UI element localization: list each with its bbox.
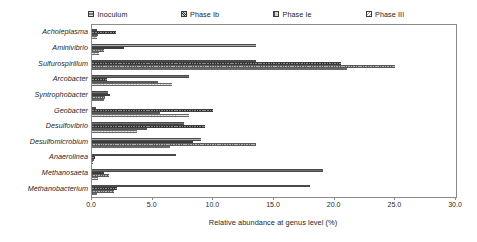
x-axis-tick-mark <box>455 197 456 200</box>
x-axis-tick-label: 5.0 <box>147 201 157 208</box>
x-axis-title: Relative abundance at genus level (%) <box>91 218 455 227</box>
x-axis-tick-label: 25.0 <box>388 201 402 208</box>
bar <box>92 177 98 180</box>
x-axis-tick-mark <box>334 197 335 200</box>
legend-label-phase-ie: Phase Ie <box>283 10 312 19</box>
x-axis-tick-mark <box>394 197 395 200</box>
bar <box>92 75 189 78</box>
bar-group <box>92 41 456 57</box>
legend-label-phase-ib: Phase Ib <box>190 10 219 19</box>
bar <box>92 193 97 196</box>
x-axis-tick-mark <box>91 197 92 200</box>
y-axis-tick-label: Acholeplasma <box>2 27 88 36</box>
legend-item-inoculum: Inoculum <box>88 10 181 19</box>
legend-label-inoculum: Inoculum <box>98 10 128 19</box>
x-axis-tick-mark <box>152 197 153 200</box>
y-axis-tick-label: Desulfomicrobium <box>2 137 88 146</box>
bar <box>92 36 97 39</box>
x-axis: 0.05.010.015.020.025.030.0 <box>91 197 456 213</box>
bar-group <box>92 88 456 104</box>
bar-group <box>92 119 456 135</box>
bar-group <box>92 134 456 150</box>
bar-chart-figure: Inoculum Phase Ib Phase Ie Phase III Ach… <box>0 0 477 242</box>
phase-ie-swatch-icon <box>273 11 279 17</box>
bar <box>92 161 93 164</box>
bar-group <box>92 181 456 197</box>
bars-container <box>92 25 456 197</box>
chart-legend: Inoculum Phase Ib Phase Ie Phase III <box>88 6 458 22</box>
x-axis-tick-label: 30.0 <box>448 201 462 208</box>
bar <box>92 185 310 188</box>
legend-item-phase-ie: Phase Ie <box>273 10 366 19</box>
y-axis-tick-label: Arcobacter <box>2 74 88 83</box>
bar <box>92 114 189 117</box>
plot-area <box>91 24 457 198</box>
x-axis-tick-label: 20.0 <box>327 201 341 208</box>
bar-group <box>92 150 456 166</box>
bar-group <box>92 166 456 182</box>
phase-ib-swatch-icon <box>181 11 187 17</box>
bar <box>92 83 172 86</box>
x-axis-tick-label: 0.0 <box>86 201 96 208</box>
y-axis-tick-label: Aminivibrio <box>2 43 88 52</box>
x-axis-tick-label: 10.0 <box>206 201 220 208</box>
legend-item-phase-ib: Phase Ib <box>181 10 274 19</box>
bar <box>92 146 170 149</box>
y-axis-tick-label: Methanosaeta <box>2 168 88 177</box>
bar <box>92 169 323 172</box>
legend-label-phase-iii: Phase III <box>375 10 404 19</box>
x-axis-tick-label: 15.0 <box>266 201 280 208</box>
y-axis-tick-label: Syntrophobacter <box>2 90 88 99</box>
bar <box>92 68 347 71</box>
bar <box>92 154 176 157</box>
y-axis-labels: AcholeplasmaAminivibrioSulfurospirillumA… <box>0 24 88 196</box>
phase-iii-swatch-icon <box>366 11 372 17</box>
x-axis-tick-mark <box>212 197 213 200</box>
legend-item-phase-iii: Phase III <box>366 10 459 19</box>
inoculum-swatch-icon <box>88 11 94 17</box>
bar-group <box>92 103 456 119</box>
y-axis-tick-label: Methanobacterium <box>2 184 88 193</box>
bar <box>92 130 137 133</box>
x-axis-tick-mark <box>273 197 274 200</box>
y-axis-tick-label: Sulfurospirillum <box>2 59 88 68</box>
bar <box>92 99 104 102</box>
bar-group <box>92 25 456 41</box>
y-axis-tick-label: Geobacter <box>2 106 88 115</box>
bar <box>92 52 99 55</box>
y-axis-tick-label: Anaerolinea <box>2 152 88 161</box>
y-axis-tick-label: Desulfovibrio <box>2 121 88 130</box>
bar-group <box>92 56 456 72</box>
bar-group <box>92 72 456 88</box>
